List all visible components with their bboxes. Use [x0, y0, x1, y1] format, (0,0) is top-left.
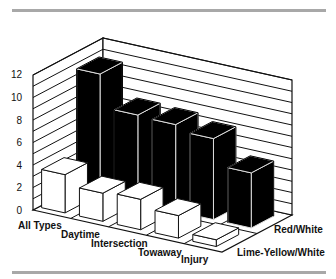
y-tick: 10 [11, 92, 23, 103]
3d-bar-chart: 0 2 4 6 8 10 12 All Types Daytime Inters… [0, 0, 336, 279]
y-tick: 2 [16, 182, 22, 193]
category-label: Injury [181, 254, 209, 265]
series-label-lime-yellow-white: Lime-Yellow/White [237, 247, 325, 258]
y-tick: 0 [16, 205, 22, 216]
bar-red-white [228, 156, 274, 228]
y-axis-ticks: 0 2 4 6 8 10 12 [11, 69, 23, 216]
category-label: Towaway [138, 247, 182, 258]
y-tick: 6 [16, 137, 22, 148]
category-label: All Types [18, 220, 62, 231]
series-label-red-white: Red/White [274, 224, 323, 235]
y-tick: 4 [16, 160, 22, 171]
y-tick: 8 [16, 115, 22, 126]
y-tick: 12 [11, 69, 23, 80]
